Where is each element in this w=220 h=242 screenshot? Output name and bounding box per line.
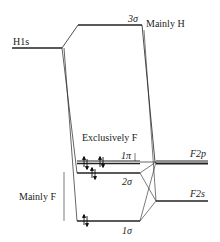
mo-diagram: H1s 3σ Mainly H Exclusively F 1π 2σ 1σ F…	[0, 0, 220, 242]
h1s-to-3sigma-line	[62, 25, 78, 48]
sigma2-to-f2s-line	[140, 173, 156, 201]
pi1-electron-pair-2	[99, 157, 105, 168]
sigma3-label: 3σ	[127, 13, 139, 24]
pi1-label: 1π	[121, 150, 132, 161]
sigma1-to-f2s-line	[140, 201, 156, 221]
sigma3-to-f2s-line	[144, 30, 156, 201]
h1s-to-1sigma-line	[64, 48, 77, 221]
f2p-label: F2p	[189, 148, 206, 159]
sigma1-label: 1σ	[122, 225, 133, 236]
h1s-label: H1s	[13, 36, 29, 47]
mainly-h-label: Mainly H	[146, 18, 185, 29]
electron-arrows	[83, 157, 105, 227]
sigma2-label: 2σ	[122, 176, 133, 187]
sigma1-to-f2p-line	[140, 162, 156, 221]
f2s-label: F2s	[189, 188, 205, 199]
h1s-to-2sigma-line	[62, 48, 77, 173]
mainly-f-label: Mainly F	[19, 191, 56, 202]
exclusively-f-label: Exclusively F	[82, 132, 138, 143]
